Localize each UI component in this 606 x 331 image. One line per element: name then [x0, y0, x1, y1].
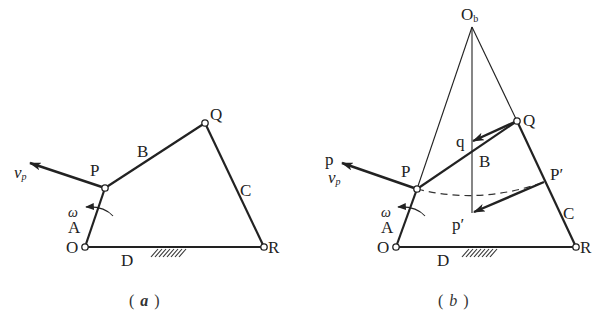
caption-b: (b): [438, 292, 469, 310]
velocity-q-arrow: [473, 121, 517, 141]
link-c: [517, 121, 576, 247]
caption-a: (a): [129, 292, 160, 310]
label-p-lower: p: [325, 150, 334, 169]
link-a: [396, 189, 417, 247]
label-r: R: [268, 238, 280, 257]
link-b: [417, 121, 517, 189]
label-q-lower: q: [456, 132, 465, 151]
label-ob: Ob: [461, 5, 478, 24]
label-omega: ω: [68, 205, 78, 220]
label-p: P: [90, 161, 99, 180]
figure-canvas: O P Q R A B C D ω vp (a): [0, 0, 606, 331]
link-c: [205, 123, 264, 247]
panel-a: O P Q R A B C D ω vp (a): [14, 105, 280, 310]
link-a: [85, 188, 105, 247]
label-p-prime-lower: p′: [452, 215, 464, 234]
pin-q: [514, 118, 520, 124]
panel-b: Ob O P Q R A B C D q p p′ P′ ω vp (b): [325, 5, 592, 310]
label-link-a: A: [381, 218, 394, 237]
label-p-prime: P′: [550, 165, 563, 184]
link-b: [105, 123, 205, 188]
label-p: P: [401, 162, 410, 181]
omega-arrow: [398, 207, 425, 216]
label-q: Q: [523, 111, 535, 130]
ground-hatch-icon: [462, 249, 497, 257]
pin-p: [102, 185, 108, 191]
arc-p-to-p-prime: [417, 182, 544, 196]
label-q: Q: [210, 105, 222, 124]
label-link-a: A: [68, 218, 81, 237]
construction-line-rq-to-ob: [472, 27, 517, 121]
pin-o: [393, 244, 399, 250]
ground-hatch-icon: [151, 249, 186, 257]
label-link-b: B: [479, 152, 490, 171]
pin-r: [573, 244, 579, 250]
omega-arrow: [86, 207, 113, 216]
label-link-c: C: [240, 181, 251, 200]
construction-line-op-to-ob: [417, 27, 472, 189]
label-o: O: [66, 238, 78, 257]
pin-o: [82, 244, 88, 250]
label-link-b: B: [137, 142, 148, 161]
velocity-p-prime-arrow: [474, 182, 544, 212]
label-vp: vp: [14, 163, 27, 182]
label-link-d: D: [437, 251, 449, 270]
pin-q: [202, 120, 208, 126]
pin-r: [261, 244, 267, 250]
label-o: O: [377, 238, 389, 257]
label-link-d: D: [121, 251, 133, 270]
label-omega: ω: [381, 205, 391, 220]
label-link-c: C: [563, 204, 574, 223]
pin-p: [414, 186, 420, 192]
label-vp: vp: [328, 168, 341, 187]
label-r: R: [580, 238, 592, 257]
